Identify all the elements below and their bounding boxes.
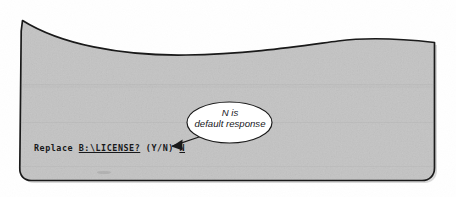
- callout-label-line1: N is: [187, 107, 273, 118]
- prompt-prefix: Replace: [34, 143, 79, 153]
- terminal-prompt-line: Replace B:\LICENSE? (Y/N) N: [34, 143, 185, 154]
- callout-label: N is default response: [187, 107, 273, 130]
- prompt-path: B:\LICENSE?: [79, 143, 141, 153]
- scan-blemish: [97, 171, 111, 174]
- callout-label-line2: default response: [187, 118, 273, 129]
- prompt-options: (Y/N): [140, 143, 179, 153]
- screen-fragment-illustration: [0, 0, 456, 197]
- figure-canvas: Replace B:\LICENSE? (Y/N) N N is default…: [0, 0, 456, 197]
- prompt-default-response: N: [179, 143, 185, 153]
